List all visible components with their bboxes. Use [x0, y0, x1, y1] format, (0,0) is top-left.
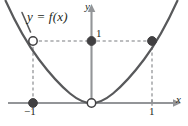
figure-container: y = f(x) y x 1 1 −1 — [0, 0, 188, 126]
x-axis-label: x — [176, 94, 181, 105]
filled-point-1-1 — [148, 37, 157, 46]
x-axis-tick-label-neg1: −1 — [24, 106, 36, 117]
y-axis-label: y — [85, 1, 90, 12]
open-point-origin — [87, 99, 95, 107]
function-label: y = f(x) — [27, 10, 68, 23]
y-axis-tick-label-1: 1 — [96, 28, 102, 39]
open-point-neg1-1 — [29, 37, 37, 45]
filled-point-0-1 — [87, 37, 96, 46]
x-axis-tick-label-1: 1 — [149, 106, 155, 117]
